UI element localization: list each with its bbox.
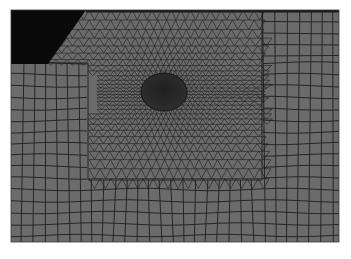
circular-inclusion xyxy=(141,73,187,111)
mesh-canvas xyxy=(0,0,351,259)
mesh-figure xyxy=(0,0,351,259)
